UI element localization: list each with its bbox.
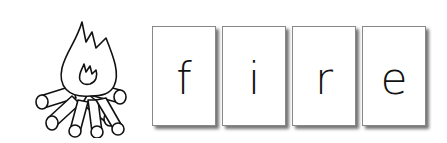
letter: r — [315, 53, 333, 104]
letter-card-2: i — [222, 26, 286, 126]
letter: i — [248, 53, 260, 104]
letter: e — [380, 53, 407, 104]
letter-card-4: e — [362, 26, 426, 126]
letter: f — [176, 53, 192, 104]
letter-card-3: r — [292, 26, 356, 126]
campfire-icon — [10, 8, 150, 138]
letter-card-1: f — [152, 26, 216, 126]
